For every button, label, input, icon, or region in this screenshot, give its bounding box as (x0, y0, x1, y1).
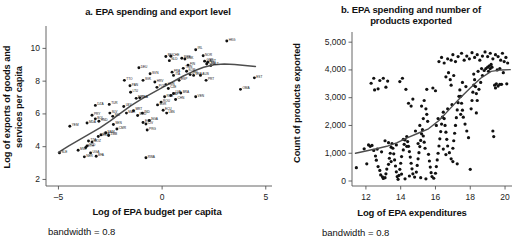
data-point-label: SLE (61, 151, 67, 154)
data-point (407, 102, 410, 105)
data-point (504, 56, 507, 59)
data-point (378, 79, 381, 82)
data-point (502, 71, 505, 74)
data-point (474, 85, 477, 88)
data-point-label: SVN (152, 72, 158, 75)
data-point (506, 61, 509, 64)
data-point-label: CIV (148, 122, 153, 125)
data-point (355, 166, 358, 169)
data-point-label: BEL (168, 54, 174, 57)
data-point-label: EST (256, 76, 262, 79)
data-point (391, 147, 394, 150)
data-point-label: POL (159, 85, 165, 88)
data-point (436, 152, 439, 155)
data-point-label: NER (86, 155, 93, 158)
data-point (394, 164, 397, 167)
data-point (450, 84, 453, 87)
data-point (463, 122, 466, 125)
data-point (429, 166, 432, 169)
data-point (503, 60, 506, 63)
data-point (424, 177, 427, 180)
data-point (425, 88, 428, 91)
y-tick-label: 2 (35, 174, 40, 184)
data-point (440, 122, 443, 125)
data-point (480, 67, 483, 70)
data-point (365, 162, 368, 165)
data-point (455, 116, 458, 119)
data-point (491, 57, 494, 60)
data-point (383, 139, 386, 142)
data-point (450, 59, 453, 62)
data-point-label: ESP (181, 78, 187, 81)
data-point (456, 162, 459, 165)
data-point (471, 91, 474, 94)
data-point (494, 86, 497, 89)
data-point (470, 51, 473, 54)
data-point (451, 53, 454, 56)
data-point-label: MAR (128, 111, 135, 114)
data-point-label: USA (196, 73, 202, 76)
data-point (460, 102, 463, 105)
data-point-label: MDA (89, 121, 96, 124)
data-point (434, 172, 437, 175)
data-point-label: CZE (170, 86, 176, 89)
data-point-label: IND (144, 111, 149, 114)
data-point (477, 88, 480, 91)
data-point (419, 139, 422, 142)
data-point (404, 88, 407, 91)
data-point (434, 89, 437, 92)
data-point (416, 142, 419, 145)
data-point-label: NIC (115, 114, 120, 117)
data-point (403, 143, 406, 146)
data-point-label: LBY (126, 104, 132, 107)
data-point (490, 63, 493, 66)
data-point (370, 82, 373, 85)
x-tick-label: 0 (148, 192, 176, 202)
data-point (383, 176, 386, 179)
data-point-label: ITA (175, 73, 180, 76)
data-point-label: PAN (132, 84, 138, 87)
data-point (446, 144, 449, 147)
data-point-label: TUR (111, 102, 117, 105)
data-point (492, 135, 495, 138)
data-point (400, 155, 403, 158)
data-point (456, 55, 459, 58)
data-point (489, 52, 492, 55)
data-point (446, 57, 449, 60)
data-point (468, 57, 471, 60)
data-point (483, 50, 486, 53)
data-point (452, 74, 455, 77)
data-point (369, 145, 372, 148)
data-point-label: HRV (157, 80, 164, 83)
data-point-label: ROU (163, 100, 170, 103)
data-point-label: BRA (183, 91, 189, 94)
data-point (496, 55, 499, 58)
y-tick-label: 8 (35, 76, 40, 86)
data-point (375, 159, 378, 162)
x-tick-label: 14 (387, 192, 415, 202)
data-point-label: NLD (171, 58, 177, 61)
y-tick-label: 6 (35, 108, 40, 118)
data-point (405, 145, 408, 148)
data-point (432, 177, 435, 180)
data-point (374, 154, 377, 157)
data-point-label: RWA (148, 156, 155, 159)
data-point-label: HKG (229, 39, 236, 42)
data-point (456, 108, 459, 111)
data-point-label: FRA (174, 70, 180, 73)
data-point (450, 157, 453, 160)
data-point (451, 147, 454, 150)
data-point (430, 171, 433, 174)
data-point (475, 92, 478, 95)
data-point (386, 79, 389, 82)
data-point-label: IRL (198, 47, 203, 50)
data-point (444, 153, 447, 156)
data-point (372, 77, 375, 80)
y-tick-label: 0 (341, 176, 346, 186)
data-point (423, 147, 426, 150)
data-point (415, 171, 418, 174)
data-point (417, 151, 420, 154)
data-point (416, 157, 419, 160)
data-point (452, 139, 455, 142)
data-point-label: DEU (141, 66, 148, 69)
